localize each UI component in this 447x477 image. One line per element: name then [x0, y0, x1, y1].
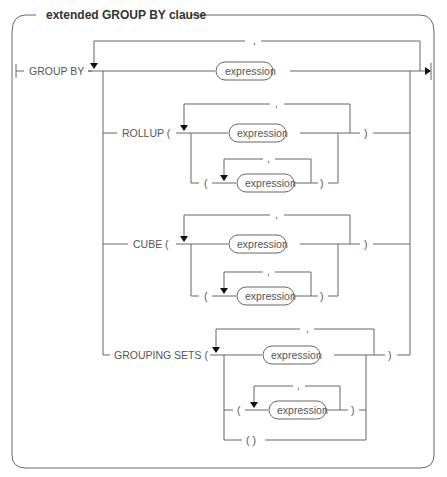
- grouping-sets-keyword: GROUPING SETS (: [114, 349, 208, 361]
- grouping-sets-separator: ,: [306, 323, 309, 334]
- grouping-sets-nested-expression: expression: [277, 404, 328, 416]
- rollup-nested-separator: ,: [267, 153, 270, 164]
- cube-nested-separator: ,: [267, 266, 270, 277]
- syntax-diagram: extended GROUP BY clause GROUP BY expres…: [0, 0, 447, 477]
- rollup-nested-branch: [191, 133, 199, 183]
- grouping-sets-expression: expression: [271, 349, 322, 361]
- grouping-sets-nested-join: [359, 355, 366, 410]
- cube-nested-expression: expression: [245, 290, 296, 302]
- loop-arrow-icon: [180, 236, 188, 242]
- cube-expression: expression: [237, 238, 288, 250]
- end-arrow-icon: [425, 67, 431, 75]
- frame-border: [12, 15, 434, 468]
- grouping-sets-close-paren: ): [388, 349, 392, 361]
- separator-comma: ,: [253, 35, 256, 46]
- rollup-expression: expression: [237, 127, 288, 139]
- rollup-close-paren: ): [364, 127, 368, 139]
- cube-keyword: CUBE (: [133, 238, 169, 250]
- cube-close-paren: ): [364, 238, 368, 250]
- rollup-nested-join: [328, 133, 338, 183]
- loop-arrow-icon: [180, 125, 188, 131]
- cube-nested-close: ): [320, 290, 324, 302]
- loop-arrow-icon: [212, 347, 220, 353]
- cube-nested-branch: [191, 244, 199, 296]
- cube-nested-join: [328, 244, 338, 296]
- cube-separator: ,: [275, 209, 278, 220]
- loop-arrow-icon: [220, 288, 228, 294]
- grouping-sets-nested-close: ): [351, 404, 355, 416]
- group-by-keyword: GROUP BY: [29, 65, 84, 77]
- grouping-sets-nested-open: (: [237, 404, 241, 416]
- rollup-nested-expression: expression: [245, 177, 296, 189]
- rollup-nested-close: ): [320, 177, 324, 189]
- grouping-sets-nested-separator: ,: [297, 380, 300, 391]
- expression-token: expression: [225, 65, 276, 77]
- rollup-separator: ,: [275, 98, 278, 109]
- loop-arrow-icon: [220, 175, 228, 181]
- diagram-title: extended GROUP BY clause: [46, 8, 207, 22]
- cube-nested-open: (: [204, 290, 208, 302]
- loop-arrow-icon: [90, 63, 98, 69]
- rollup-keyword: ROLLUP (: [122, 127, 171, 139]
- loop-arrow-icon: [250, 402, 258, 408]
- empty-set-token: ( ): [246, 434, 256, 446]
- rollup-nested-open: (: [204, 177, 208, 189]
